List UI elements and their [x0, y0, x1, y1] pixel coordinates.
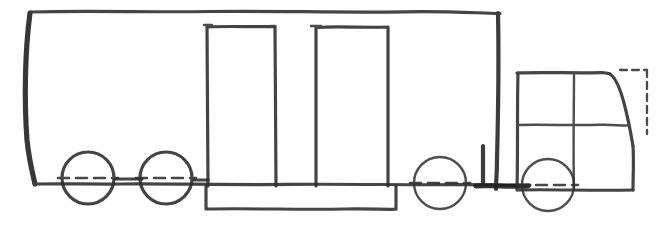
- truck-diagram-svg: [0, 0, 667, 229]
- cab-windshield: [610, 74, 633, 146]
- cab-rear-wall: [517, 73, 518, 190]
- cab-bottom-edge: [518, 190, 633, 191]
- wheel-1: [58, 152, 118, 204]
- lower-chassis-rail: [206, 186, 396, 209]
- trailer-right-edge: [496, 13, 498, 189]
- upright-box-right-outline: [316, 27, 388, 186]
- truck-sketch-canvas: [0, 0, 667, 229]
- trailer-top-rail: [31, 11, 500, 13]
- wheel-4: [518, 159, 578, 211]
- cab-roof: [517, 73, 610, 74]
- trailer-left-edge: [25, 13, 35, 184]
- upright-box-right: [311, 26, 388, 186]
- lower-rail-outline: [206, 186, 396, 209]
- cab: [517, 73, 633, 191]
- wheel-2: [136, 152, 196, 204]
- kingpin-post: [476, 146, 528, 186]
- upright-box-left: [204, 25, 276, 186]
- wheel-group: [58, 152, 578, 211]
- cab-belt-line: [517, 125, 628, 126]
- upright-box-left-outline: [207, 26, 276, 186]
